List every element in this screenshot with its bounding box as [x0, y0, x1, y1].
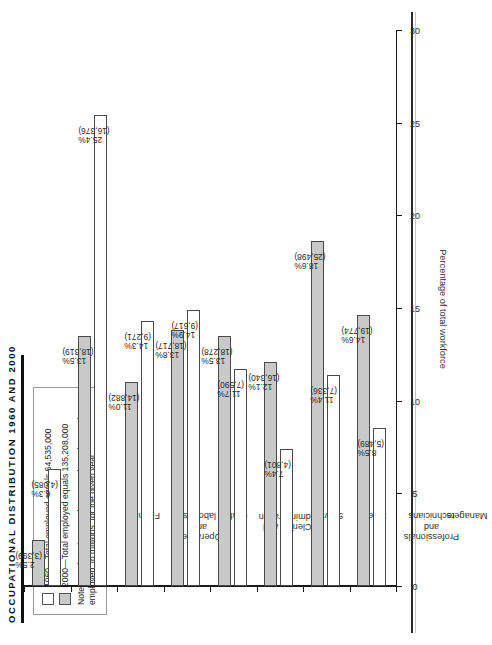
bar-service-1960 — [234, 369, 247, 586]
value-tick-label-20: 20 — [410, 211, 420, 221]
value-tick-15 — [396, 308, 402, 309]
value-tick-5 — [396, 493, 402, 494]
bar-label-crafts-2000: 11.0% (14,882) — [108, 393, 172, 412]
category-tick-managers — [396, 587, 397, 592]
bar-professionals-2000 — [311, 241, 324, 586]
bar-operatives-2000 — [78, 336, 91, 586]
value-tick-label-5: 5 — [412, 489, 417, 499]
bar-crafts-2000 — [125, 382, 138, 586]
bar-label-farming-1960: 6.3% (4,085) — [31, 480, 95, 499]
value-tick-25 — [396, 123, 402, 124]
value-tick-10 — [396, 401, 402, 402]
bar-clerical-2000 — [171, 330, 184, 586]
plot-area: 0 5 10 15 20 25 30 Percentage of total w… — [24, 31, 396, 587]
legend-swatch-open-square-icon — [42, 593, 54, 605]
bar-label-professionals-1960: 11.4% (7,336) — [310, 385, 374, 404]
bar-label-farming-2000: 2.5% (3,399) — [15, 550, 79, 569]
category-tick-professionals — [350, 587, 351, 592]
value-tick-label-10: 10 — [410, 397, 420, 407]
legend-swatch-filled-square-icon — [59, 593, 71, 605]
category-tick-top — [24, 587, 25, 592]
category-tick-crafts — [164, 587, 165, 592]
value-axis-title: Percentage of total workforce — [438, 249, 448, 369]
bar-crafts-1960 — [141, 321, 154, 586]
bar-service-2000 — [218, 336, 231, 586]
value-axis-line — [396, 31, 397, 587]
value-tick-label-30: 30 — [410, 26, 420, 36]
bar-label-professionals-2000: 18.6% (25,498) — [294, 252, 358, 271]
value-tick-20 — [396, 215, 402, 216]
category-tick-clerical — [210, 587, 211, 592]
category-tick-service — [257, 587, 258, 592]
value-tick-label-25: 25 — [410, 119, 420, 129]
bar-label-operatives-1960: 25.4% (16,376) — [78, 126, 142, 145]
value-tick-label-15: 15 — [410, 304, 420, 314]
figure-title: Occupational Distribution 1960 and 2000 — [6, 323, 17, 623]
value-tick-label-0: 0 — [412, 582, 417, 592]
bar-label-crafts-1960: 14.3% (9,271) — [124, 331, 188, 350]
bar-label-service-1960: 11.7% (7,590) — [217, 380, 281, 399]
bar-label-operatives-2000: 13.5% (18,319) — [62, 346, 126, 365]
category-tick-sales — [303, 587, 304, 592]
bar-label-sales-1960: 7.4% (4,801) — [264, 459, 328, 478]
value-tick-30 — [396, 30, 402, 31]
bar-label-managers-2000: 14.6% (19,774) — [341, 326, 405, 345]
title-block: Occupational Distribution 1960 and 2000 — [6, 323, 24, 623]
category-tick-farming — [71, 587, 72, 592]
category-tick-operatives — [117, 587, 118, 592]
bar-professionals-1960 — [327, 375, 340, 586]
bar-label-managers-1960: 8.5% (5,489) — [357, 439, 421, 458]
